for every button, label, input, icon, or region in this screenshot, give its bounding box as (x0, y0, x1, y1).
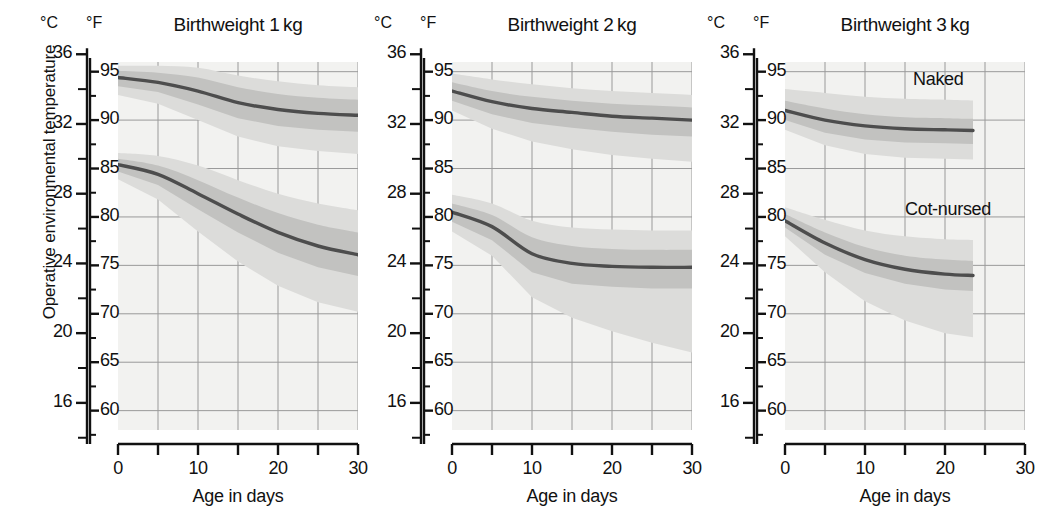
celsius-tick-label: 16 (689, 391, 739, 412)
panel-birthweight-3kg: Birthweight 3 kg°C°FNakedCot-nursed95908… (0, 0, 1049, 507)
celsius-unit-label: °C (707, 14, 725, 32)
panel-title: Birthweight 3 kg (745, 14, 1049, 36)
x-axis-tick-label: 30 (995, 458, 1049, 479)
fahrenheit-unit-label: °F (753, 14, 769, 32)
fahrenheit-tick-label: 90 (767, 108, 786, 129)
celsius-tick-label: 20 (689, 321, 739, 342)
x-axis-tick-label: 20 (915, 458, 975, 479)
curve-annotation-naked: Naked (913, 69, 964, 90)
celsius-tick-label: 24 (689, 251, 739, 272)
plot-area (785, 62, 1025, 430)
fahrenheit-tick-label: 95 (767, 60, 786, 81)
fahrenheit-tick-label: 70 (767, 302, 786, 323)
fahrenheit-tick-label: 85 (767, 157, 786, 178)
x-axis-tick-label: 0 (755, 458, 815, 479)
figure-root: Operative environmental temperature Birt… (0, 0, 1049, 507)
fahrenheit-tick-label: 75 (767, 253, 786, 274)
celsius-tick-label: 32 (689, 112, 739, 133)
x-axis-title: Age in days (785, 486, 1025, 507)
curve-annotation-cot-nursed: Cot-nursed (905, 199, 991, 220)
fahrenheit-tick-label: 65 (767, 350, 786, 371)
celsius-tick-label: 28 (689, 182, 739, 203)
celsius-tick-label: 36 (689, 42, 739, 63)
x-axis-tick-label: 10 (835, 458, 895, 479)
fahrenheit-tick-label: 60 (767, 399, 786, 420)
fahrenheit-tick-label: 80 (767, 205, 786, 226)
